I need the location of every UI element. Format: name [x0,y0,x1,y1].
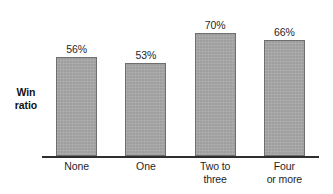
bar-two-to-three [195,33,236,156]
x-tick-label-two-to-three-line-2: three [181,173,250,186]
bar-column-none: 56% [42,8,111,156]
x-tick-label-none-line-1: None [42,160,111,173]
bar-none [56,57,97,156]
bar-series: 56% 53% 70% 66% [42,8,319,156]
bar-four-or-more [264,40,305,156]
x-tick-label-four-or-more-line-2: or more [250,173,319,186]
bar-column-two-to-three: 70% [181,8,250,156]
bar-value-label-none: 56% [66,43,87,55]
x-axis-tick-labels: None One Two to three Four or more [42,160,319,185]
bar-column-four-or-more: 66% [250,8,319,156]
x-tick-label-four-or-more-line-1: Four [250,160,319,173]
bar-column-one: 53% [111,8,180,156]
x-tick-label-one: One [111,160,180,185]
x-tick-label-none: None [42,160,111,185]
bar-value-label-four-or-more: 66% [274,26,295,38]
x-tick-label-two-to-three-line-1: Two to [181,160,250,173]
bar-value-label-two-to-three: 70% [205,19,226,31]
bar-one [125,63,166,156]
x-tick-label-two-to-three: Two to three [181,160,250,185]
x-axis-line [42,156,319,158]
bar-chart: Win ratio 56% 53% 70% 66% None One [0,0,333,194]
bar-value-label-one: 53% [136,49,157,61]
x-tick-label-four-or-more: Four or more [250,160,319,185]
x-tick-label-one-line-1: One [111,160,180,173]
